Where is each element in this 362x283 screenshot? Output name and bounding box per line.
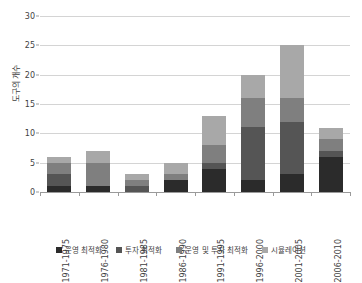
x-tick-mark (195, 192, 196, 196)
y-tick-mark-25 (36, 45, 39, 46)
bar-stack (86, 151, 110, 192)
bar-stack (164, 163, 188, 192)
bar-segment (319, 128, 343, 140)
y-tick-label-25: 25 (25, 41, 35, 50)
legend-item[interactable]: 투자 최적화 (116, 244, 162, 255)
x-tick-mark (156, 192, 157, 196)
bar-group[interactable] (280, 16, 304, 192)
bar-group[interactable] (47, 16, 71, 192)
y-tick-label-0: 0 (30, 188, 35, 197)
bar-segment (280, 122, 304, 175)
legend-swatch-icon (262, 247, 268, 253)
x-tick-mark (40, 192, 41, 196)
legend-label: 운영 및 투자 최적화 (185, 244, 248, 255)
y-tick-mark-5 (36, 162, 39, 163)
y-tick-label-20: 20 (25, 70, 35, 79)
x-tick-mark (118, 192, 119, 196)
bar-group[interactable] (164, 16, 188, 192)
bar-stack (319, 128, 343, 192)
bar-group[interactable] (202, 16, 226, 192)
bar-segment (202, 116, 226, 145)
bars-group (40, 16, 350, 192)
x-tick-mark (234, 192, 235, 196)
bar-segment (241, 75, 265, 98)
bar-segment (47, 163, 71, 175)
bar-segment (241, 98, 265, 127)
bar-group[interactable] (86, 16, 110, 192)
bar-segment (164, 180, 188, 192)
bar-segment (47, 174, 71, 186)
legend-item[interactable]: 운영 및 투자 최적화 (176, 244, 248, 255)
bar-segment (319, 139, 343, 151)
y-tick-label-5: 5 (30, 158, 35, 167)
bar-stack (280, 45, 304, 192)
bar-group[interactable] (241, 16, 265, 192)
y-tick-mark-10 (36, 133, 39, 134)
legend-item[interactable]: 시뮬레이션 (262, 244, 306, 255)
y-tick-mark-15 (36, 104, 39, 105)
y-axis-title: 도구의 개수 (10, 49, 21, 119)
bar-segment (164, 163, 188, 175)
bar-segment (319, 157, 343, 192)
legend-label: 운영 최적화 (65, 244, 102, 255)
legend-swatch-icon (176, 247, 182, 253)
bar-stack (47, 157, 71, 192)
bar-segment (280, 174, 304, 192)
y-tick-label-15: 15 (25, 100, 35, 109)
plot-area: 051015202530 (40, 16, 350, 192)
y-tick-label-30: 30 (25, 12, 35, 21)
bar-segment (280, 98, 304, 121)
x-tick-mark (273, 192, 274, 196)
chart-legend: 운영 최적화투자 최적화운영 및 투자 최적화시뮬레이션 (0, 244, 362, 255)
bar-segment (241, 180, 265, 192)
y-tick-mark-20 (36, 74, 39, 75)
bar-stack (202, 116, 226, 192)
x-tick-mark (350, 192, 351, 196)
legend-label: 시뮬레이션 (271, 244, 306, 255)
bar-segment (202, 169, 226, 192)
y-tick-label-10: 10 (25, 129, 35, 138)
y-tick-mark-0 (36, 192, 39, 193)
bar-group[interactable] (319, 16, 343, 192)
bar-segment (280, 45, 304, 98)
bar-stack (241, 75, 265, 192)
x-axis-labels: 1971-19751976-19801981-19851986-19901991… (40, 197, 350, 241)
bar-segment (86, 163, 110, 186)
y-tick-mark-30 (36, 16, 39, 17)
legend-swatch-icon (56, 247, 62, 253)
bar-segment (241, 127, 265, 180)
legend-item[interactable]: 운영 최적화 (56, 244, 102, 255)
x-tick-mark (79, 192, 80, 196)
bar-stack (125, 174, 149, 192)
bar-segment (202, 145, 226, 163)
legend-label: 투자 최적화 (125, 244, 162, 255)
bar-group[interactable] (125, 16, 149, 192)
bar-segment (86, 151, 110, 163)
x-tick-mark (311, 192, 312, 196)
legend-swatch-icon (116, 247, 122, 253)
